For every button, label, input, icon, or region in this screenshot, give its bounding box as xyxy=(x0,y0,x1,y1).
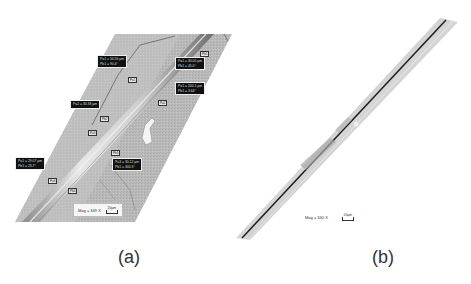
scale-bar: 20µm xyxy=(342,213,354,221)
magnification-label-a: Mag = 349 X 20µm xyxy=(73,203,123,217)
measurement-label: Pa2 = 30.38 µm xyxy=(70,100,100,109)
point-tag: Pb3 xyxy=(111,150,120,156)
point-tag: Pa4 xyxy=(48,178,57,184)
panel-caption-a: (a) xyxy=(118,247,140,268)
figure: Pa1 Pb1 Pa2 Pb2 Pa3 Pb3 Pa4 Pb4 Pa1 = 50… xyxy=(0,0,471,284)
magnification-label-b: Mag = 340 X 20µm xyxy=(305,213,354,221)
panel-a-micrograph xyxy=(0,0,471,284)
point-tag: Pa1 xyxy=(128,77,137,83)
panel-caption-b: (b) xyxy=(372,247,394,268)
scale-bar: 20µm xyxy=(106,206,118,214)
point-tag: Pb4 xyxy=(68,188,77,194)
measurement-label: Pa1 = 50.56 µm Pb1 = 90.4° xyxy=(97,55,127,68)
measurement-label: Pa3 = 30.12 µm Pb1 = 300.3° xyxy=(112,158,142,171)
measurement-label: Pa1 = 200.1 µm Pb1 = 3.64° xyxy=(175,82,205,95)
measurement-label: Pa1 = 30.00 µm Pb1 = 45.0° xyxy=(175,57,205,70)
point-tag: Pa3 xyxy=(88,130,97,136)
point-tag: Pb2 xyxy=(100,116,109,122)
measurement-label: Pa1 = 29.07 µm Pb1 = 23.7° xyxy=(15,157,45,170)
point-tag: Pa2 xyxy=(158,100,167,106)
